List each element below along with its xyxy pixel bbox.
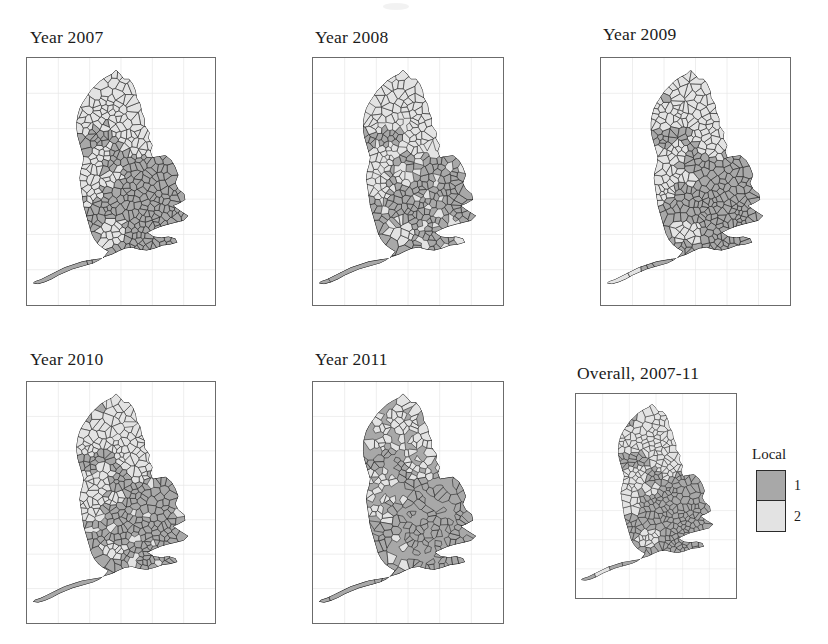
england-choropleth-2009 (601, 58, 790, 305)
england-choropleth-2010 (27, 382, 215, 623)
legend-swatch-1 (757, 471, 785, 501)
map-panel-2007[interactable] (26, 57, 216, 306)
map-panel-2008[interactable] (312, 57, 504, 306)
legend-title: Local (752, 446, 786, 463)
legend: Local 1 2 (752, 446, 824, 538)
england-choropleth-2011 (313, 382, 503, 623)
panel-title-2011: Year 2011 (315, 349, 388, 370)
map-panel-2009[interactable] (600, 57, 791, 306)
england-choropleth-2007 (27, 58, 215, 305)
england-choropleth-overall (576, 394, 736, 598)
legend-swatch-stack (756, 470, 786, 532)
scan-artifact (383, 3, 409, 10)
legend-label-2: 2 (794, 510, 801, 524)
panel-title-overall: Overall, 2007-11 (577, 363, 699, 384)
panel-title-2007: Year 2007 (30, 27, 103, 48)
panel-title-2008: Year 2008 (315, 27, 388, 48)
figure-canvas: Year 2007 Year 2008 Year 2009 Year 2010 … (0, 0, 828, 644)
map-panel-2011[interactable] (312, 381, 504, 624)
panel-title-2010: Year 2010 (30, 349, 103, 370)
map-panel-overall[interactable] (575, 393, 737, 599)
map-panel-2010[interactable] (26, 381, 216, 624)
panel-title-2009: Year 2009 (603, 24, 676, 45)
legend-swatch-2 (757, 501, 785, 531)
england-choropleth-2008 (313, 58, 503, 305)
legend-label-1: 1 (794, 479, 801, 493)
